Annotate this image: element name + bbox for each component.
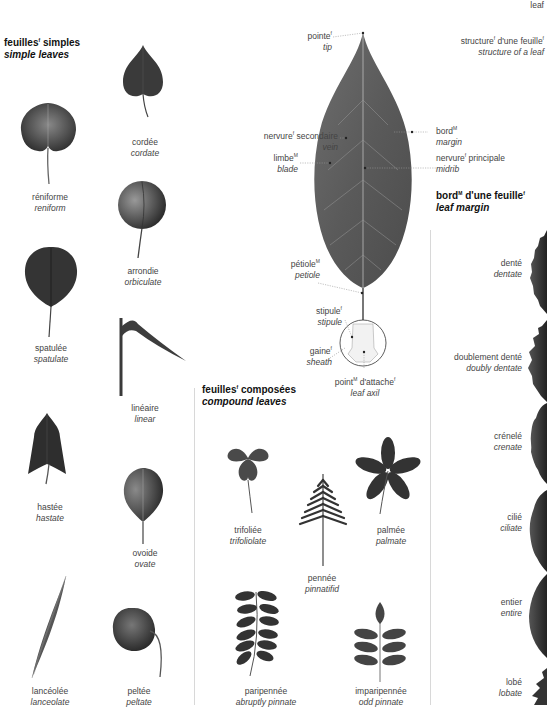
margin-entire: entier entire [436, 597, 522, 619]
compound-leaf-trifoliolate: trifoliée trifoliolate [216, 525, 280, 547]
compound-section-divider [194, 388, 195, 705]
compound-leaf-odd-pinnate: imparipennée odd pinnate [346, 686, 416, 708]
margin-samples [526, 228, 547, 705]
odd-pinnate-leaf-icon [350, 600, 410, 684]
label-tip: pointef tip [290, 31, 332, 53]
compound-leaf-palmate: palmée palmate [366, 525, 416, 547]
pinnatifid-leaf-icon [296, 472, 352, 572]
margin-section-divider [430, 230, 431, 705]
margin-dentate: denté dentate [436, 258, 522, 280]
trifoliolate-leaf-icon [224, 435, 274, 525]
abruptly-pinnate-leaf-icon [228, 588, 284, 680]
label-petiole: pétioleM petiole [270, 259, 320, 281]
margin-doubly-dentate: doublement denté doubly dentate [436, 352, 522, 374]
compound-leaf-pinnatifid: pennée pinnatifid [290, 573, 354, 595]
leaf-margin-heading: bordM d'une feuillef leaf margin [436, 190, 525, 214]
compound-leaf-abruptly-pinnate: paripennée abruptly pinnate [226, 686, 306, 708]
margin-ciliate: cilié ciliate [436, 512, 522, 534]
label-margin: bordM margin [436, 126, 462, 148]
compound-leaves-heading: feuillesf composées compound leaves [202, 384, 296, 408]
label-vein: nervuref secondaire vein [220, 131, 338, 153]
label-midrib: nervuref principale midrib [436, 153, 505, 175]
margin-lobate: lobé lobate [436, 677, 522, 699]
label-blade: limbeM blade [260, 153, 298, 175]
palmate-leaf-icon [360, 438, 416, 520]
label-stipule: stipulef stipule [290, 306, 342, 328]
label-sheath: gainef sheath [290, 346, 332, 368]
margin-crenate: crénelé crenate [436, 431, 522, 453]
label-leaf-axil: pointM d'attachef leaf axil [320, 377, 410, 399]
